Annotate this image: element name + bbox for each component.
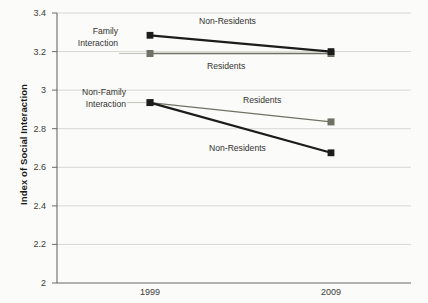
y-tick-label-2-4: 2.4 xyxy=(12,201,46,211)
x-tick-label-2009: 2009 xyxy=(301,287,361,297)
annotation-family-interaction: Family Interaction xyxy=(18,26,118,49)
series-family-residents xyxy=(147,50,335,57)
data-point-marker xyxy=(328,149,335,156)
data-point-marker xyxy=(147,99,154,106)
data-point-marker xyxy=(147,50,154,57)
y-tick-label-2-6: 2.6 xyxy=(12,162,46,172)
annotation-upper-residents: Residents xyxy=(207,61,245,71)
annotation-lower-residents: Residents xyxy=(243,95,281,105)
x-tick-label-1999: 1999 xyxy=(120,287,180,297)
y-tick-marks xyxy=(52,13,57,283)
y-tick-label-2-2: 2.2 xyxy=(12,239,46,249)
annotation-lower-non-residents: Non-Residents xyxy=(209,143,266,153)
annotation-family-line1: Family xyxy=(18,26,118,38)
y-tick-label-3-4: 3.4 xyxy=(12,8,46,18)
y-tick-label-2-8: 2.8 xyxy=(12,124,46,134)
annotation-family-line2: Interaction xyxy=(18,38,118,50)
y-tick-label-2: 2 xyxy=(12,278,46,288)
annotation-upper-non-residents: Non-Residents xyxy=(199,16,256,26)
annotation-non-family-line2: Interaction xyxy=(18,99,126,111)
data-point-marker xyxy=(328,118,335,125)
chart-container: Index of Social Interaction xyxy=(0,0,428,303)
annotation-non-family-line1: Non-Family xyxy=(18,87,126,99)
data-point-marker xyxy=(328,48,335,55)
series-nonfamily-residents xyxy=(147,99,335,125)
annotation-non-family-interaction: Non-Family Interaction xyxy=(18,87,126,110)
data-point-marker xyxy=(147,32,154,39)
